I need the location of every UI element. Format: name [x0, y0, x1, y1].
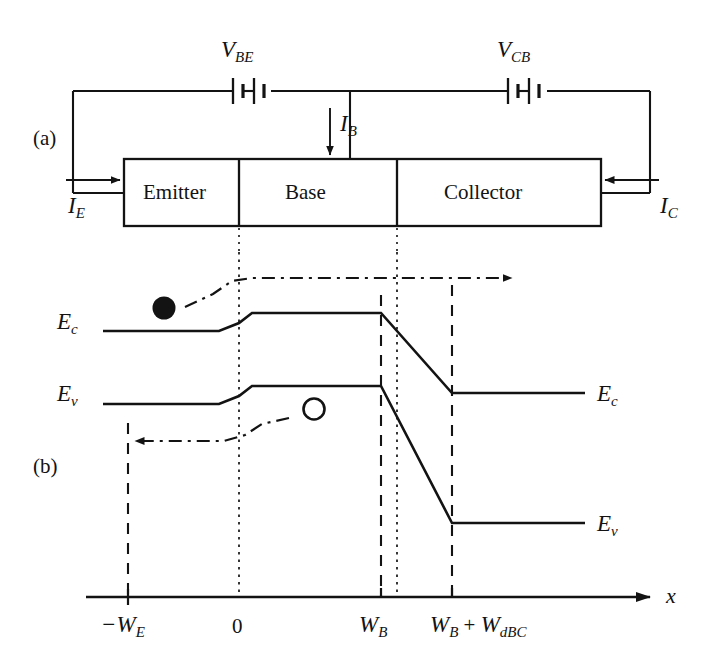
- wb-subscript: B: [378, 624, 387, 640]
- vbe-battery-symbol: [233, 78, 264, 104]
- x-tick-label-wb-plus-wdbc: WB + WdBC: [430, 613, 527, 636]
- conduction-band-label-left: Ec: [57, 310, 78, 333]
- hole-marker: [304, 399, 325, 420]
- conduction-band-edge: [103, 313, 585, 393]
- minus-we-subscript: E: [136, 624, 145, 640]
- base-current-label: IB: [340, 112, 357, 135]
- valence-band-edge: [103, 386, 585, 523]
- base-region-label: Base: [285, 182, 326, 203]
- conduction-band-label-right: Ec: [597, 382, 618, 405]
- vbe-subscript: BE: [235, 49, 253, 65]
- x-tick-label-minus-we: −WE: [101, 613, 145, 636]
- wbw-plus-sign: +: [458, 613, 480, 637]
- ev-right-symbol: E: [597, 511, 611, 536]
- vcb-subscript: CB: [511, 49, 530, 65]
- hole-injection-arrow: [135, 418, 289, 441]
- collector-current-label: IC: [660, 194, 678, 217]
- minus-we-main: −W: [101, 612, 136, 637]
- vbe-symbol: V: [221, 37, 235, 62]
- x-tick-label-wb: WB: [359, 613, 387, 636]
- circuit-schematic-group: [66, 78, 659, 252]
- vbe-label: VBE: [221, 38, 253, 61]
- valence-band-label-right: Ev: [597, 512, 618, 535]
- emitter-current-label: IE: [68, 194, 85, 217]
- ib-symbol: I: [340, 111, 348, 136]
- wbw-main-1: W: [430, 612, 449, 637]
- ev-left-subscript: v: [71, 393, 78, 409]
- ec-left-subscript: c: [71, 321, 78, 337]
- ec-left-symbol: E: [57, 309, 71, 334]
- panel-tag-b: (b): [33, 456, 58, 477]
- ib-subscript: B: [348, 123, 357, 139]
- band-reference-lines: [128, 252, 452, 597]
- wb-main: W: [359, 612, 378, 637]
- wbw-subscript-2: dBC: [500, 624, 527, 640]
- ec-right-symbol: E: [597, 381, 611, 406]
- vcb-symbol: V: [497, 37, 511, 62]
- ie-subscript: E: [76, 205, 85, 221]
- panel-tag-a: (a): [33, 128, 56, 149]
- x-tick-label-zero: 0: [232, 616, 243, 637]
- band-diagram-group: [86, 252, 650, 605]
- valence-band-label-left: Ev: [57, 382, 78, 405]
- ev-left-symbol: E: [57, 381, 71, 406]
- emitter-region-label: Emitter: [143, 182, 206, 203]
- collector-region-label: Collector: [444, 182, 522, 203]
- vcb-battery-symbol: [508, 78, 539, 104]
- ic-subscript: C: [668, 205, 678, 221]
- figure-drawing: [0, 0, 722, 663]
- vcb-label: VCB: [497, 38, 530, 61]
- figure-root: (a) (b) VBE VCB IE IB IC Emitter Base Co…: [0, 0, 722, 663]
- circuit-wiring: [73, 91, 650, 193]
- wbw-main-2: W: [481, 612, 500, 637]
- x-axis-label: x: [666, 585, 676, 607]
- electron-injection-arrow: [185, 278, 512, 307]
- junction-guide-stubs: [239, 228, 397, 252]
- electron-marker: [153, 297, 176, 320]
- wbw-subscript-1: B: [449, 624, 458, 640]
- ie-symbol: I: [68, 193, 76, 218]
- ic-symbol: I: [660, 193, 668, 218]
- ev-right-subscript: v: [611, 523, 618, 539]
- ec-right-subscript: c: [611, 393, 618, 409]
